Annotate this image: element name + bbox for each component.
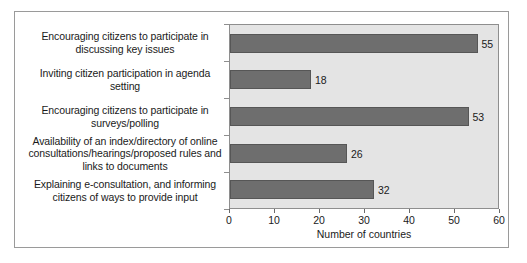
category-label: Inviting citizen participation in agenda… bbox=[21, 61, 229, 98]
x-axis-tick-label: 0 bbox=[226, 214, 232, 226]
x-axis-tick-labels: 0102030405060 bbox=[229, 214, 499, 228]
bar-slot: 55 bbox=[230, 25, 498, 62]
bar bbox=[230, 107, 469, 126]
bar-value-label: 26 bbox=[351, 148, 363, 159]
category-label: Encouraging citizens to participate in s… bbox=[21, 98, 229, 135]
x-axis-tick-mark bbox=[319, 209, 320, 213]
bar-value-label: 53 bbox=[473, 111, 485, 122]
category-label: Availability of an index/directory of on… bbox=[21, 135, 229, 172]
bar-chart: Encouraging citizens to participate in d… bbox=[15, 12, 508, 247]
x-axis-tick-mark bbox=[229, 209, 230, 213]
bar bbox=[230, 34, 478, 53]
plot-area: 55 18 53 26 32 bbox=[229, 24, 499, 209]
x-axis-tick-mark bbox=[454, 209, 455, 213]
x-axis-tick-mark bbox=[274, 209, 275, 213]
bar bbox=[230, 70, 311, 89]
category-label: Encouraging citizens to participate in d… bbox=[21, 24, 229, 61]
bar-value-label: 18 bbox=[315, 75, 327, 86]
x-axis-tick-mark bbox=[364, 209, 365, 213]
bars-layer: 55 18 53 26 32 bbox=[230, 25, 498, 208]
bar-value-label: 55 bbox=[482, 38, 494, 49]
bar-slot: 53 bbox=[230, 98, 498, 135]
x-axis-tick-mark bbox=[499, 209, 500, 213]
x-axis-tick-label: 20 bbox=[313, 214, 325, 226]
x-axis-tick-label: 10 bbox=[268, 214, 280, 226]
figure-frame: Encouraging citizens to participate in d… bbox=[14, 11, 509, 248]
category-label: Explaining e-consultation, and informing… bbox=[21, 172, 229, 209]
x-axis-tick-label: 50 bbox=[448, 214, 460, 226]
bar bbox=[230, 144, 347, 163]
bar-slot: 26 bbox=[230, 135, 498, 172]
x-axis-tick-label: 60 bbox=[493, 214, 505, 226]
x-axis-tick-label: 40 bbox=[403, 214, 415, 226]
bar-value-label: 32 bbox=[378, 185, 390, 196]
bar-slot: 32 bbox=[230, 171, 498, 208]
bar-slot: 18 bbox=[230, 62, 498, 99]
x-axis-tick-label: 30 bbox=[358, 214, 370, 226]
category-axis-labels: Encouraging citizens to participate in d… bbox=[21, 24, 229, 209]
x-axis-tick-mark bbox=[409, 209, 410, 213]
bar bbox=[230, 180, 374, 199]
x-axis-title: Number of countries bbox=[229, 228, 499, 241]
